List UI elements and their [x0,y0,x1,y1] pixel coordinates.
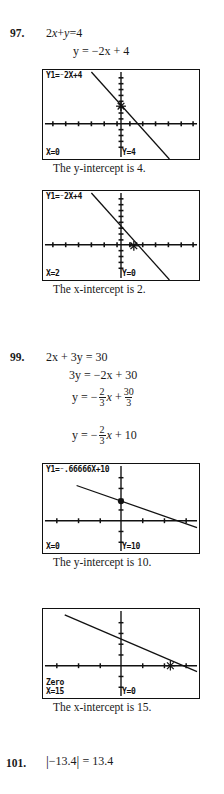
problem-number-99: 99. [10,351,24,363]
eq-suffix: x + 10 [107,428,137,443]
calculator-screen-97-x-intercept[interactable]: Y1=⁻2X+4 X=2 Y=0 [42,190,200,281]
graph-line [91,72,169,159]
problem-99-equation-1: 2x + 3y = 30 [46,350,108,365]
calc-equation-label: Y1=⁻2X+4 [46,72,82,80]
absolute-value-bar-open: | [46,755,49,769]
graph-plot [43,191,199,280]
graph-plot [43,70,199,159]
fraction-denominator: 3 [125,397,132,408]
calc-zero-label: Zero [46,679,64,687]
caption-97-y-intercept: The y-intercept is 4. [53,162,146,174]
fraction-two-thirds: 2 3 [99,425,106,446]
problem-97-equation-2: y = −2x + 4 [73,44,129,59]
equation-result: = 13.4 [82,754,113,768]
problem-number-101: 101. [6,757,26,769]
calc-equation-label: Y1=⁻2X+4 [46,193,82,201]
graph-cursor [118,498,124,504]
caption-99-y-intercept: The y-intercept is 10. [53,556,151,568]
calc-y-value-label: Y=4 [122,149,136,157]
graph-svg [43,464,199,553]
calc-y-value-label: Y=10 [122,543,140,551]
calc-y-value-label: Y=0 [122,270,136,278]
fraction-numerator: 2 [99,425,106,435]
caption-99-x-intercept: The x-intercept is 15. [53,701,151,713]
fraction-denominator: 3 [99,397,106,408]
graph-svg [43,70,199,159]
fraction-numerator: 2 [99,387,106,397]
graph-cursor [129,241,139,251]
worksheet-page: 97. 2x+y=4 y = −2x + 4 [0,0,224,794]
problem-97-equation-1: 2x+y=4 [46,26,82,41]
calculator-screen-99-x-intercept[interactable]: Zero X=15 Y=0 [42,608,200,699]
eq-prefix: y = − [72,390,98,405]
eq-const: 4 [76,26,82,40]
graph-plot [43,464,199,553]
calc-x-value-label: X=15 [46,688,64,696]
graph-plot [43,609,199,698]
problem-99-equation-3: y = − 2 3 x + 30 3 [72,387,136,408]
graph-svg [43,191,199,280]
eq-prefix: y = − [72,428,98,443]
problem-99-equation-2: 3y = −2x + 30 [69,368,137,383]
problem-number-97: 97. [10,27,24,39]
eq-middle: x + [107,390,122,405]
absolute-value-bar-close: | [77,755,80,769]
fraction-denominator: 3 [99,435,106,446]
problem-99-equation-4: y = − 2 3 x + 10 [72,425,137,446]
calculator-screen-99-y-intercept[interactable]: Y1=⁻.66666X+10 X=0 Y=10 [42,463,200,554]
calculator-screen-97-y-intercept[interactable]: Y1=⁻2X+4 X=0 Y=4 [42,69,200,160]
graph-line [65,615,197,672]
graph-svg [43,609,199,698]
fraction-two-thirds: 2 3 [99,387,106,408]
calc-y-value-label: Y=0 [122,688,136,696]
calc-equation-label: Y1=⁻.66666X+10 [46,466,109,474]
caption-97-x-intercept: The x-intercept is 2. [53,283,146,295]
absolute-value-operand: −13.4 [49,754,77,768]
calc-x-value-label: X=0 [46,543,60,551]
fraction-thirty-thirds: 30 3 [123,387,135,408]
graph-line [91,193,169,280]
calc-x-value-label: X=0 [46,149,60,157]
calc-x-value-label: X=2 [46,270,60,278]
fraction-numerator: 30 [123,387,135,397]
problem-101-equation: |−13.4| = 13.4 [46,754,113,769]
